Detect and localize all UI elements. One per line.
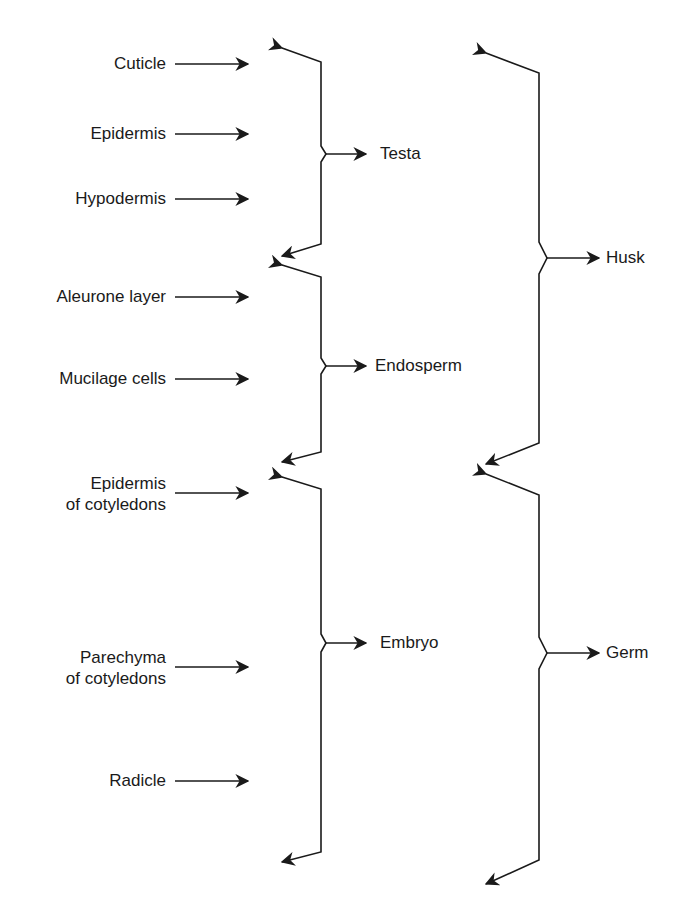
label-epidermis-cotyledons: Epidermis of cotyledons: [66, 473, 166, 515]
label-radicle: Radicle: [109, 770, 166, 791]
label-embryo: Embryo: [380, 632, 439, 653]
label-epidermis: Epidermis: [90, 123, 166, 144]
label-testa: Testa: [380, 143, 421, 164]
label-cuticle: Cuticle: [114, 53, 166, 74]
label-line-1: Parechyma: [66, 647, 166, 668]
label-aleurone-layer: Aleurone layer: [56, 286, 166, 307]
label-line-2: of cotyledons: [66, 668, 166, 689]
label-hypodermis: Hypodermis: [75, 188, 166, 209]
label-germ: Germ: [606, 642, 649, 663]
brace-germ: [486, 474, 547, 884]
brace-husk: [486, 53, 547, 464]
brace-embryo: [282, 477, 326, 862]
label-husk: Husk: [606, 247, 645, 268]
label-line-2: of cotyledons: [66, 494, 166, 515]
label-line-1: Epidermis: [66, 473, 166, 494]
brace-endosperm: [282, 265, 326, 462]
label-endosperm: Endosperm: [375, 355, 462, 376]
brace-testa: [282, 48, 326, 256]
label-mucilage-cells: Mucilage cells: [59, 368, 166, 389]
label-parechyma-cotyledons: Parechyma of cotyledons: [66, 647, 166, 689]
